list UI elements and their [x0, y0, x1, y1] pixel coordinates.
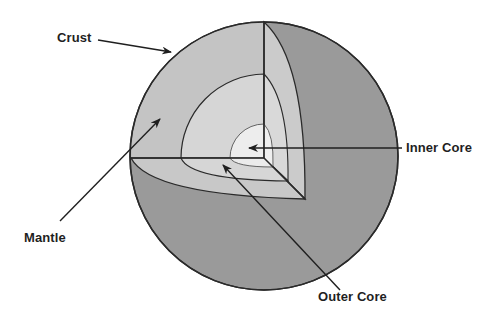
crust-arrow — [98, 40, 171, 52]
label-mantle: Mantle — [24, 230, 66, 245]
label-inner-core: Inner Core — [406, 140, 472, 155]
earth-layers-diagram — [0, 0, 493, 320]
label-crust: Crust — [57, 30, 91, 45]
label-outer-core: Outer Core — [318, 289, 387, 304]
